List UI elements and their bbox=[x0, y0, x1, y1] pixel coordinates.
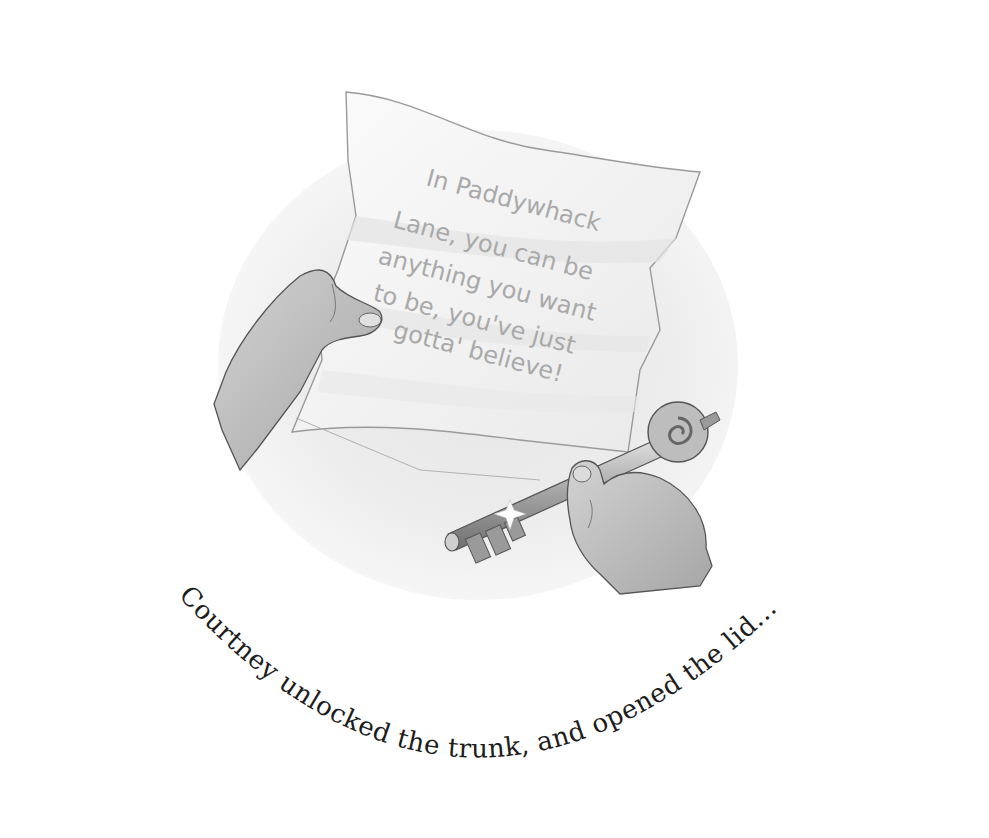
hand-icon bbox=[567, 461, 712, 594]
story-caption: Courtney unlocked the trunk, and opened … bbox=[174, 580, 783, 764]
illustration: In Paddywhack Lane, you can be anything … bbox=[0, 0, 989, 838]
story-caption-text: Courtney unlocked the trunk, and opened … bbox=[174, 580, 783, 764]
storybook-page: In Paddywhack Lane, you can be anything … bbox=[0, 0, 989, 838]
